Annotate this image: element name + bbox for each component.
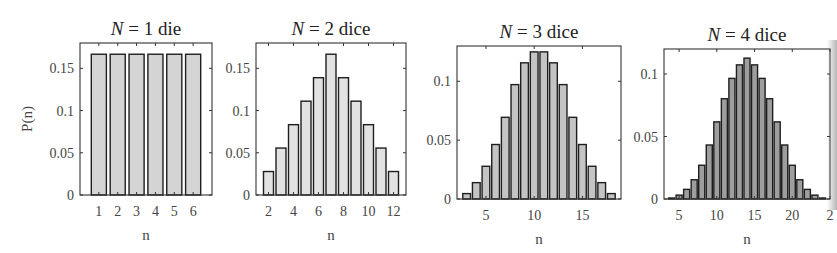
x-tick-label: 10 xyxy=(710,208,724,223)
bars xyxy=(463,52,615,199)
x-tick-label: 12 xyxy=(387,204,401,219)
y-tick-label: 0.1 xyxy=(434,74,452,89)
bar xyxy=(148,54,163,195)
y-tick-label: 0.1 xyxy=(233,104,251,119)
x-tick-label: 15 xyxy=(748,208,762,223)
x-axis-label: n xyxy=(142,227,150,243)
bar xyxy=(579,145,587,199)
panel-n4: 5101520200.050.1N = 4 dicen xyxy=(634,24,834,247)
x-tick-label: 15 xyxy=(575,208,589,223)
y-tick-label: 0 xyxy=(67,188,74,203)
y-axis-label: P(n) xyxy=(19,106,36,132)
bar xyxy=(598,183,606,199)
bar xyxy=(389,172,399,195)
y-tick-label: 0.05 xyxy=(634,130,659,145)
bar xyxy=(364,125,374,195)
bar xyxy=(276,148,286,195)
x-axis-label: n xyxy=(327,227,335,243)
page-edge-shadow xyxy=(827,40,837,210)
bar xyxy=(559,85,567,199)
panel-title: N = 1 die xyxy=(110,18,181,39)
bars xyxy=(669,58,826,199)
panel-n2: 2468101200.050.10.15N = 2 dicen xyxy=(226,18,407,243)
bar xyxy=(540,52,548,199)
y-tick-label: 0.1 xyxy=(57,104,75,119)
x-tick-label: 10 xyxy=(362,204,376,219)
x-tick-label: 10 xyxy=(527,208,541,223)
x-tick-label: 2 xyxy=(114,204,121,219)
bar xyxy=(550,63,558,199)
bar xyxy=(684,189,690,199)
bars xyxy=(91,54,200,195)
y-tick-label: 0 xyxy=(444,192,451,207)
bars xyxy=(264,54,399,195)
bar xyxy=(759,78,765,199)
panel-title: N = 2 dice xyxy=(291,18,371,39)
bar xyxy=(351,101,361,195)
bar xyxy=(752,65,758,199)
bar xyxy=(691,180,697,199)
x-tick-label: 8 xyxy=(340,204,347,219)
bar xyxy=(264,172,274,195)
x-tick-label: 5 xyxy=(676,208,683,223)
bar xyxy=(289,125,299,195)
bar xyxy=(721,99,727,199)
bar xyxy=(482,166,490,199)
bar xyxy=(110,54,125,195)
bar xyxy=(511,85,519,199)
y-tick-label: 0.15 xyxy=(226,61,251,76)
bar xyxy=(463,194,471,199)
bar xyxy=(729,78,735,199)
bar xyxy=(301,101,311,195)
y-tick-label: 0.05 xyxy=(226,146,251,161)
x-tick-label: 5 xyxy=(171,204,178,219)
y-tick-label: 0.15 xyxy=(50,61,75,76)
panel-title: N = 3 dice xyxy=(499,21,579,42)
dice-sum-distribution-figure: 12345600.050.10.15N = 1 dienP(n) 2468101… xyxy=(0,0,837,253)
bar xyxy=(167,54,182,195)
bar xyxy=(774,122,780,199)
bar xyxy=(501,117,509,199)
panel-n3: 5101500.050.1N = 3 dicen xyxy=(427,21,622,247)
bar xyxy=(129,54,144,195)
bar xyxy=(812,195,818,199)
bar xyxy=(326,54,336,195)
x-tick-label: 3 xyxy=(133,204,140,219)
bar xyxy=(186,54,201,195)
bar xyxy=(492,145,500,199)
x-axis-label: n xyxy=(535,231,543,247)
x-tick-label: 5 xyxy=(482,208,489,223)
bar xyxy=(782,145,788,199)
bar xyxy=(339,78,349,195)
bar xyxy=(699,165,705,199)
bar xyxy=(736,65,742,199)
y-tick-label: 0 xyxy=(243,188,250,203)
bar xyxy=(314,78,324,195)
bar xyxy=(569,117,577,199)
x-tick-label: 2 xyxy=(827,208,834,223)
bar xyxy=(530,52,538,199)
y-tick-label: 0.1 xyxy=(641,67,659,82)
bar xyxy=(706,145,712,199)
x-tick-label: 4 xyxy=(152,204,159,219)
x-tick-label: 6 xyxy=(315,204,322,219)
bar xyxy=(521,63,529,199)
bar xyxy=(804,189,810,199)
panel-title: N = 4 dice xyxy=(707,24,787,45)
x-tick-label: 1 xyxy=(95,204,102,219)
x-axis-label: n xyxy=(743,231,751,247)
bar xyxy=(91,54,106,195)
x-tick-label: 4 xyxy=(290,204,297,219)
x-tick-label: 20 xyxy=(785,208,799,223)
bar xyxy=(607,194,615,199)
bar xyxy=(472,183,480,199)
bar xyxy=(376,148,386,195)
bar xyxy=(744,58,750,199)
bar xyxy=(797,180,803,199)
y-tick-label: 0.05 xyxy=(50,146,75,161)
panel-n1: 12345600.050.10.15N = 1 dienP(n) xyxy=(19,18,212,243)
bar xyxy=(767,99,773,199)
x-tick-label: 2 xyxy=(265,204,272,219)
y-tick-label: 0.05 xyxy=(427,133,452,148)
bar xyxy=(789,165,795,199)
